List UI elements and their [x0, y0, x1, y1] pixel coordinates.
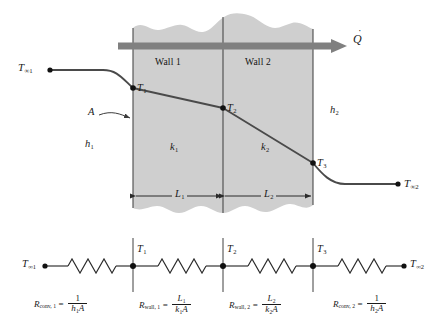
formula-resistor-conv-2: Rconv, 2 = 1 h2A [333, 294, 386, 315]
label-k2: k2 [261, 141, 269, 153]
formula-conv1-denominator: h1A [68, 303, 87, 314]
formula-wall2-fraction: L2 k2A [262, 294, 281, 316]
figure-canvas [0, 0, 447, 330]
network-node-tinf1 [42, 263, 47, 268]
curve-node-t1 [130, 85, 136, 91]
formula-wall1-denominator: k1A [172, 304, 191, 315]
network-label-t2: T2 [227, 243, 236, 255]
label-t2-schematic: T2 [227, 102, 236, 114]
network-nodes [42, 263, 406, 269]
formula-conv2-name: Rconv, 2 [333, 299, 355, 309]
zigzag-conv-2 [338, 259, 386, 273]
curve-node-t2 [220, 105, 226, 111]
formula-conv2-denominator: h2A [367, 303, 386, 314]
formula-wall1-fraction: L1 k1A [172, 294, 191, 316]
label-L1: L1 [172, 188, 187, 200]
formula-resistor-wall-1: Rwall, 1 = L1 k1A [139, 294, 191, 316]
network-label-tinf1: T∞1 [22, 258, 36, 270]
label-wall-1: Wall 1 [155, 57, 181, 67]
label-h2: h2 [330, 104, 339, 116]
formula-wall2-numerator: L2 [264, 294, 278, 304]
label-h1: h1 [85, 138, 94, 150]
formula-wall2-equals: = [250, 300, 260, 310]
label-tinf2-schematic: T∞2 [404, 177, 419, 190]
label-wall-2: Wall 2 [245, 57, 271, 67]
formula-conv1-equals: = [56, 299, 66, 309]
formula-conv2-fraction: 1 h2A [367, 294, 386, 315]
network-node-t3 [310, 263, 316, 269]
network-label-t1: T1 [137, 243, 146, 255]
formula-wall1-numerator: L1 [174, 294, 188, 304]
label-k1: k1 [170, 141, 178, 153]
zigzag-wall-2 [248, 259, 296, 273]
formula-resistor-wall-2: Rwall, 2 = L2 k2A [229, 294, 281, 316]
label-L2: L2 [261, 188, 276, 200]
label-tinf1-schematic: T∞1 [18, 61, 33, 74]
formula-conv2-equals: = [355, 299, 365, 309]
network-label-t3: T3 [317, 243, 326, 255]
formula-conv1-numerator: 1 [72, 294, 83, 303]
label-area: A [88, 106, 94, 117]
thermal-resistance-figure: T∞1 T1 T2 T3 T∞2 Wall 1 Wall 2 ̇ Q A h1 … [0, 0, 447, 330]
label-heat-flow-rate: ̇ Q [353, 32, 362, 47]
curve-node-t3 [310, 160, 316, 166]
formula-resistor-conv-1: Rconv, 1 = 1 h1A [34, 294, 87, 315]
curve-node-tinf1 [47, 67, 52, 72]
formula-conv1-fraction: 1 h1A [68, 294, 87, 315]
zigzag-conv-1 [68, 259, 116, 273]
label-t3-schematic: T3 [317, 157, 326, 169]
network-node-tinf2 [401, 263, 406, 268]
network-node-t2 [220, 263, 226, 269]
curve-node-tinf2 [395, 181, 400, 186]
formula-wall1-equals: = [160, 300, 170, 310]
formula-wall1-name: Rwall, 1 [139, 300, 160, 310]
formula-conv1-name: Rconv, 1 [34, 299, 56, 309]
area-leader-arrow [99, 113, 130, 118]
resistance-network [42, 238, 406, 292]
network-label-tinf2: T∞2 [410, 258, 424, 270]
formula-conv2-numerator: 1 [371, 294, 382, 303]
formula-wall2-name: Rwall, 2 [229, 300, 250, 310]
zigzag-wall-1 [158, 259, 206, 273]
label-t1-schematic: T1 [137, 82, 146, 94]
network-node-t1 [130, 263, 136, 269]
formula-wall2-denominator: k2A [262, 304, 281, 315]
